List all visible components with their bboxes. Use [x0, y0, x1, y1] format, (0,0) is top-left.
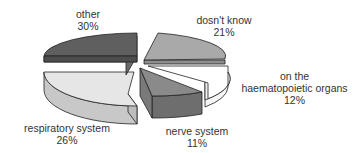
label-resp-name: respiratory system [12, 122, 122, 134]
label-haem-pct: 12% [232, 94, 357, 106]
label-other-name: other [66, 8, 110, 20]
label-other-pct: 30% [66, 20, 110, 32]
label-resp-pct: 26% [12, 134, 122, 146]
label-haem-name-line1: on the [232, 70, 357, 82]
label-other: other 30% [66, 8, 110, 32]
label-dont-know: dosn't know 21% [184, 14, 264, 38]
label-nerve-system: nerve system 11% [162, 125, 232, 149]
label-dont-know-name: dosn't know [184, 14, 264, 26]
slice-other [44, 33, 137, 75]
label-dont-know-pct: 21% [184, 26, 264, 38]
label-haematopoietic-organs: on the haematopoietic organs 12% [232, 70, 357, 106]
slice-respiratory-system [44, 72, 137, 124]
label-nerve-name: nerve system [162, 125, 232, 137]
label-nerve-pct: 11% [162, 137, 232, 149]
label-respiratory-system: respiratory system 26% [12, 122, 122, 146]
label-haem-name-line2: haematopoietic organs [232, 82, 357, 94]
